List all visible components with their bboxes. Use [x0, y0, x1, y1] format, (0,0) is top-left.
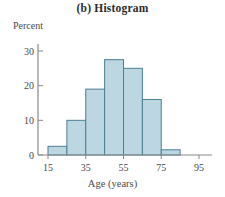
x-axis-label: Age (years) — [0, 178, 225, 189]
y-tick-label: 10 — [24, 115, 34, 126]
histogram-bar — [86, 89, 105, 155]
x-tick-label: 95 — [194, 162, 204, 173]
histogram-bar — [67, 120, 86, 155]
bars-group — [48, 60, 180, 155]
y-tick-label: 20 — [24, 80, 34, 91]
x-tick-label: 35 — [81, 162, 91, 173]
histogram-bar — [48, 146, 67, 155]
x-tick-label: 75 — [156, 162, 166, 173]
y-tick-label: 0 — [29, 150, 34, 161]
histogram-figure: (b) Histogram Percent 0102030 1535557595… — [0, 0, 225, 197]
histogram-plot: 0102030 1535557595 — [0, 0, 225, 197]
histogram-bar — [142, 100, 161, 155]
histogram-bar — [105, 60, 124, 155]
x-tick-label: 55 — [119, 162, 129, 173]
y-tick-label: 30 — [24, 46, 34, 57]
histogram-bar — [161, 150, 180, 155]
histogram-bar — [124, 68, 143, 155]
x-tick-group: 1535557595 — [43, 155, 204, 173]
y-tick-group: 0102030 — [24, 46, 43, 161]
x-tick-label: 15 — [43, 162, 53, 173]
